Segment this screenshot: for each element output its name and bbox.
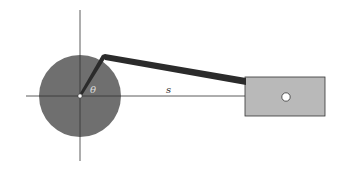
connecting-rod — [102, 54, 246, 85]
slider-pin-icon — [282, 93, 290, 101]
slider-crank-diagram: θ s — [0, 0, 344, 172]
angle-label: θ — [90, 84, 96, 95]
crank-pivot-icon — [78, 94, 82, 98]
displacement-label: s — [166, 84, 171, 95]
